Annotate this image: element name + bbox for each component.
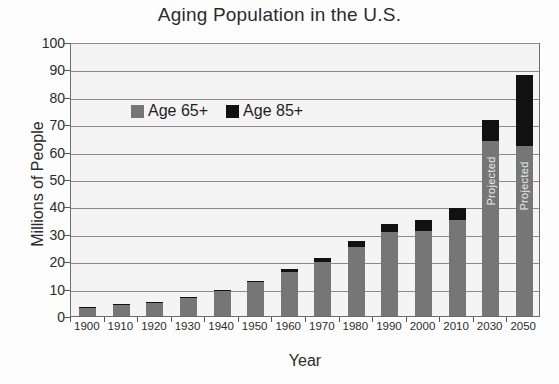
x-tick-mark xyxy=(372,317,373,322)
plot-area: ProjectedProjected xyxy=(70,43,540,317)
bar-segment-age-85-plus[interactable] xyxy=(381,224,398,232)
x-tick-label: 1980 xyxy=(338,320,372,332)
chart-title: Aging Population in the U.S. xyxy=(0,4,559,26)
bar-segment-age-65-plus[interactable] xyxy=(247,282,264,316)
gridline xyxy=(71,263,539,264)
x-tick-mark xyxy=(271,317,272,322)
bar-group[interactable] xyxy=(348,42,365,316)
legend-entry[interactable]: Age 65+ xyxy=(131,102,208,120)
chart-legend: Age 65+Age 85+ xyxy=(128,101,306,121)
bar-group[interactable] xyxy=(415,42,432,316)
bar-segment-age-65-plus[interactable] xyxy=(214,291,231,316)
x-tick-mark xyxy=(406,317,407,322)
bar-group[interactable] xyxy=(214,42,231,316)
x-tick-label: 1910 xyxy=(103,320,137,332)
bar-segment-age-65-plus[interactable] xyxy=(146,303,163,316)
y-tick-label: 10 xyxy=(21,283,65,297)
bar-segment-age-65-plus[interactable] xyxy=(415,231,432,316)
bar-segment-age-65-plus[interactable] xyxy=(516,146,533,316)
legend-entry[interactable]: Age 85+ xyxy=(226,102,303,120)
x-tick-mark xyxy=(204,317,205,322)
x-tick-label: 1920 xyxy=(137,320,171,332)
x-tick-mark xyxy=(238,317,239,322)
x-tick-mark xyxy=(439,317,440,322)
bar-group[interactable] xyxy=(314,42,331,316)
chart-container: Aging Population in the U.S. Millions of… xyxy=(0,0,559,384)
x-tick-label: 1930 xyxy=(171,320,205,332)
bar-segment-age-85-plus[interactable] xyxy=(516,75,533,146)
x-tick-label: 1970 xyxy=(305,320,339,332)
legend-label: Age 65+ xyxy=(148,102,208,120)
bar-group[interactable] xyxy=(247,42,264,316)
bar-segment-age-65-plus[interactable] xyxy=(314,262,331,316)
bar-segment-age-65-plus[interactable] xyxy=(381,232,398,316)
y-tick-label: 90 xyxy=(21,63,65,77)
x-tick-label: 1960 xyxy=(271,320,305,332)
bar-segment-age-85-plus[interactable] xyxy=(449,208,466,220)
bar-segment-age-85-plus[interactable] xyxy=(482,120,499,141)
x-tick-mark xyxy=(137,317,138,322)
bar-segment-age-65-plus[interactable] xyxy=(180,298,197,316)
bar-group[interactable] xyxy=(381,42,398,316)
bar-group[interactable] xyxy=(281,42,298,316)
bar-group[interactable] xyxy=(113,42,130,316)
bar-segment-age-65-plus[interactable] xyxy=(348,247,365,316)
bar-segment-age-65-plus[interactable] xyxy=(482,141,499,316)
legend-swatch-icon xyxy=(131,105,144,118)
x-tick-mark xyxy=(104,317,105,322)
y-tick-label: 0 xyxy=(21,310,65,324)
x-tick-label: 1900 xyxy=(70,320,104,332)
y-tick-label: 100 xyxy=(21,36,65,50)
x-tick-label: 2050 xyxy=(506,320,540,332)
bar-group[interactable] xyxy=(449,42,466,316)
bar-segment-age-85-plus[interactable] xyxy=(415,220,432,232)
gridline xyxy=(71,208,539,209)
gridline xyxy=(71,181,539,182)
bar-group[interactable] xyxy=(146,42,163,316)
x-tick-label: 1990 xyxy=(372,320,406,332)
x-tick-mark xyxy=(70,317,71,322)
y-tick-label: 20 xyxy=(21,255,65,269)
gridline xyxy=(71,99,539,100)
y-tick-label: 70 xyxy=(21,118,65,132)
y-tick-label: 80 xyxy=(21,91,65,105)
x-tick-label: 2030 xyxy=(473,320,507,332)
bar-segment-age-65-plus[interactable] xyxy=(281,272,298,316)
bar-group[interactable]: Projected xyxy=(516,42,533,316)
y-tick-label: 50 xyxy=(21,173,65,187)
x-tick-label: 1940 xyxy=(204,320,238,332)
gridline xyxy=(71,236,539,237)
legend-label: Age 85+ xyxy=(243,102,303,120)
gridline xyxy=(71,126,539,127)
gridline xyxy=(71,71,539,72)
x-tick-label: 2010 xyxy=(439,320,473,332)
x-tick-mark xyxy=(171,317,172,322)
x-tick-label: 2000 xyxy=(406,320,440,332)
x-tick-mark xyxy=(473,317,474,322)
bar-group[interactable] xyxy=(180,42,197,316)
gridline xyxy=(71,291,539,292)
bar-segment-age-65-plus[interactable] xyxy=(113,305,130,316)
bar-segment-age-65-plus[interactable] xyxy=(79,308,96,316)
y-tick-label: 40 xyxy=(21,200,65,214)
gridline xyxy=(71,154,539,155)
x-tick-mark xyxy=(506,317,507,322)
y-tick-label: 30 xyxy=(21,228,65,242)
y-tick-label: 60 xyxy=(21,146,65,160)
bar-segment-age-65-plus[interactable] xyxy=(449,220,466,316)
x-tick-mark xyxy=(339,317,340,322)
legend-swatch-icon xyxy=(226,105,239,118)
bar-group[interactable] xyxy=(79,42,96,316)
x-axis-title: Year xyxy=(70,352,540,370)
x-tick-mark xyxy=(305,317,306,322)
bar-group[interactable]: Projected xyxy=(482,42,499,316)
x-tick-label: 1950 xyxy=(238,320,272,332)
